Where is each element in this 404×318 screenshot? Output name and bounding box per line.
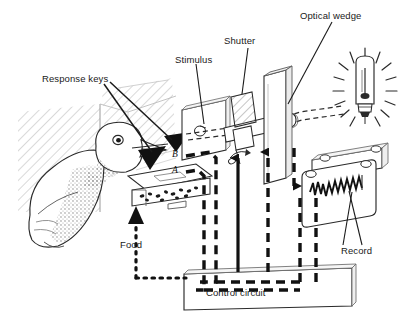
label-record: Record bbox=[341, 246, 372, 256]
label-food: Food bbox=[120, 240, 142, 250]
label-key-b: B bbox=[172, 150, 178, 160]
shutter[interactable] bbox=[228, 48, 256, 165]
food-arrowhead bbox=[128, 206, 144, 224]
label-control-circuit: Control circuit bbox=[206, 288, 266, 298]
label-shutter: Shutter bbox=[224, 36, 255, 46]
label-response-keys: Response keys bbox=[42, 74, 108, 84]
stimulus-panel bbox=[182, 64, 230, 160]
diagram-canvas bbox=[0, 0, 404, 318]
label-stimulus: Stimulus bbox=[175, 55, 212, 65]
response-key-panel[interactable] bbox=[128, 164, 212, 209]
label-optical-wedge: Optical wedge bbox=[300, 11, 362, 21]
apparatus-diagram: Response keys Stimulus Shutter Optical w… bbox=[0, 0, 404, 318]
label-key-a: A bbox=[172, 166, 178, 176]
